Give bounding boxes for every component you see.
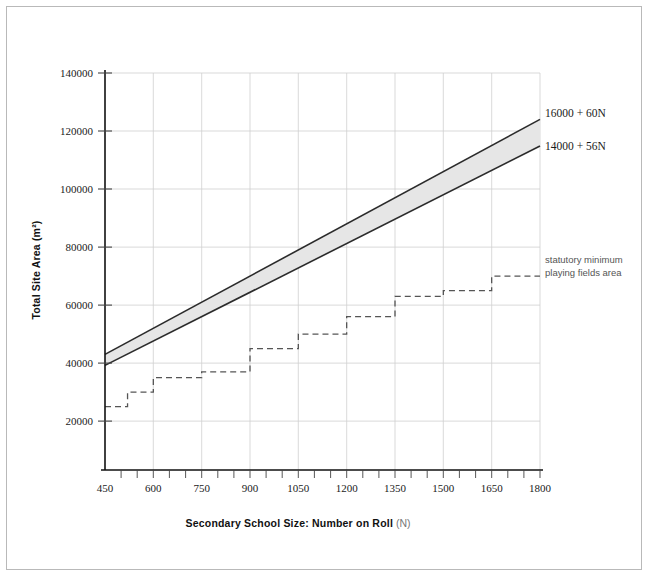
x-axis-minor-ticks [121, 470, 540, 478]
x-tick-label-750: 750 [193, 482, 210, 494]
line-annotations: 16000 + 60N 14000 + 56N statutory minimu… [540, 79, 623, 278]
x-tick-label-1500: 1500 [432, 482, 455, 494]
statutory-minimum-playing-fields-line [105, 276, 540, 407]
x-tick-label-1800: 1800 [529, 482, 552, 494]
chart-root: 20000 40000 60000 80000 100000 120000 14… [0, 0, 649, 577]
playing-fields-note-line1: statutory minimum [545, 254, 623, 265]
y-axis-tick-labels: 20000 40000 60000 80000 100000 120000 14… [60, 67, 94, 427]
x-axis-tick-labels: 450 600 750 900 1050 1200 1350 1500 1650… [97, 482, 552, 494]
y-tick-label-40000: 40000 [66, 357, 94, 369]
lower-site-area-line [105, 146, 540, 365]
x-tick-label-900: 900 [242, 482, 259, 494]
x-tick-label-1200: 1200 [336, 482, 359, 494]
x-tick-label-1650: 1650 [481, 482, 504, 494]
x-tick-label-1350: 1350 [384, 482, 407, 494]
y-tick-label-100000: 100000 [60, 183, 94, 195]
total-site-area-chart: 20000 40000 60000 80000 100000 120000 14… [0, 0, 649, 577]
upper-line-label: 16000 + 60N [545, 107, 606, 119]
x-tick-label-1050: 1050 [287, 482, 310, 494]
y-tick-label-140000: 140000 [60, 67, 94, 79]
x-axis-title-group: Secondary School Size: Number on Roll (N… [185, 517, 410, 529]
y-axis-title: Total Site Area (m²) [30, 220, 42, 319]
y-tick-label-120000: 120000 [60, 125, 94, 137]
y-tick-label-20000: 20000 [66, 415, 94, 427]
lower-line-label: 14000 + 56N [545, 140, 606, 152]
grid-lines [105, 73, 540, 470]
site-area-band [105, 119, 540, 365]
playing-fields-note-line2: playing fields area [545, 267, 622, 278]
x-axis-title-suffix: (N) [396, 517, 411, 529]
upper-site-area-line [105, 119, 540, 354]
y-tick-label-60000: 60000 [66, 299, 94, 311]
x-axis-title: Secondary School Size: Number on Roll [185, 517, 393, 529]
x-tick-label-450: 450 [97, 482, 114, 494]
x-tick-label-600: 600 [145, 482, 162, 494]
y-tick-label-80000: 80000 [66, 241, 94, 253]
